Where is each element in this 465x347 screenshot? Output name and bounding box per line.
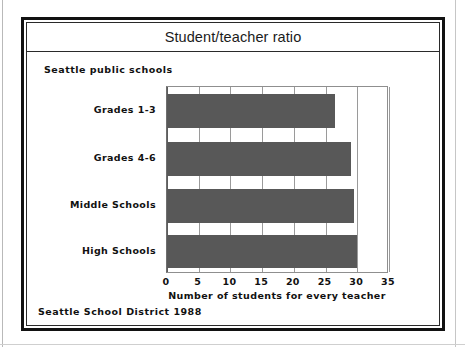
bar-3 — [167, 189, 354, 223]
page-edge-bottom — [0, 344, 465, 345]
x-tick-15: 15 — [246, 276, 276, 287]
page-title: Student/teacher ratio — [165, 29, 302, 45]
page-edge-left — [2, 0, 3, 347]
plot-area — [166, 86, 388, 273]
source-footnote: Seattle School District 1988 — [38, 306, 202, 317]
x-tick-20: 20 — [278, 276, 308, 287]
x-tick-10: 10 — [214, 276, 244, 287]
figure-root: Student/teacher ratio Seattle public sch… — [0, 0, 465, 347]
bar-2 — [167, 142, 351, 176]
x-axis-label: Number of students for every teacher — [166, 290, 388, 301]
category-label-4: High Schools — [0, 245, 156, 256]
category-label-1: Grades 1-3 — [0, 104, 156, 115]
x-tick-35: 35 — [373, 276, 403, 287]
category-label-2: Grades 4-6 — [0, 152, 156, 163]
x-tick-5: 5 — [183, 276, 213, 287]
title-band: Student/teacher ratio — [27, 23, 439, 51]
gridline-35 — [389, 87, 390, 272]
bar-4 — [167, 235, 357, 268]
category-label-3: Middle Schools — [0, 199, 156, 210]
x-tick-25: 25 — [310, 276, 340, 287]
page-edge-right — [455, 0, 456, 347]
title-divider — [27, 51, 439, 52]
x-tick-0: 0 — [151, 276, 181, 287]
bar-1 — [167, 94, 335, 128]
x-tick-30: 30 — [341, 276, 371, 287]
chart-subtitle: Seattle public schools — [44, 64, 173, 75]
